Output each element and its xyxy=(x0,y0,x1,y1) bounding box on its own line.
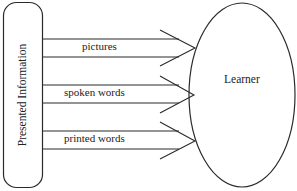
learner-ellipse xyxy=(189,3,295,187)
source-label: Presented Information xyxy=(16,44,28,147)
channel-pictures-lines xyxy=(42,30,195,66)
learner-label: Learner xyxy=(224,73,260,85)
channel-label-pictures: pictures xyxy=(82,40,117,52)
channel-label-spoken-words: spoken words xyxy=(64,86,125,98)
arrowhead-icon xyxy=(160,30,195,66)
diagram-canvas xyxy=(0,0,297,191)
channel-label-printed-words: printed words xyxy=(64,132,125,144)
arrowhead-icon xyxy=(160,122,195,159)
